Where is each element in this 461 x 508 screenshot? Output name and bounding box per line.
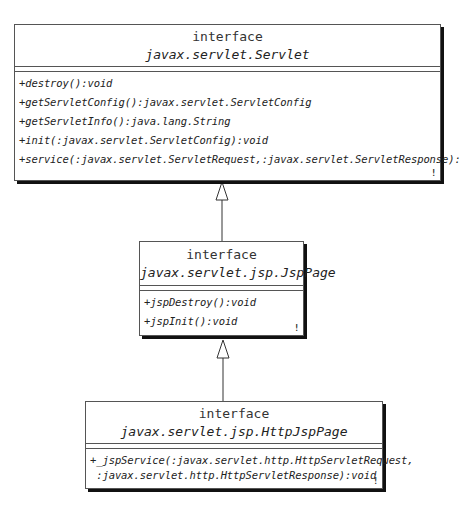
class-header: interface javax.servlet.jsp.HttpJspPage — [86, 402, 382, 443]
corner-mark-icon: ! — [294, 325, 299, 333]
class-name: javax.servlet.Servlet — [15, 46, 440, 64]
class-name: javax.servlet.jsp.HttpJspPage — [86, 423, 382, 441]
generalization-arrow-jsppage-to-servlet — [216, 182, 228, 241]
class-header: interface javax.servlet.jsp.JspPage — [140, 242, 303, 285]
stereotype-label: interface — [140, 246, 303, 264]
stereotype-label: interface — [86, 405, 382, 423]
operation: +_jspService(:javax.servlet.http.HttpSer… — [90, 453, 378, 468]
corner-mark-icon: ! — [373, 478, 378, 486]
operations-list: +jspDestroy():void +jspInit():void — [140, 291, 303, 331]
operation-continuation: :javax.servlet.http.HttpServletResponse)… — [90, 468, 378, 483]
operation: +jspDestroy():void — [144, 293, 299, 312]
operation: +init(:javax.servlet.ServletConfig):void — [19, 131, 436, 150]
operation: +destroy():void — [19, 74, 436, 93]
stereotype-label: interface — [15, 28, 440, 46]
operations-list: +destroy():void +getServletConfig():java… — [15, 72, 440, 169]
operation: +getServletConfig():javax.servlet.Servle… — [19, 93, 436, 112]
class-servlet[interactable]: interface javax.servlet.Servlet +destroy… — [14, 24, 441, 181]
class-httpjsppage[interactable]: interface javax.servlet.jsp.HttpJspPage … — [85, 401, 383, 489]
class-name: javax.servlet.jsp.JspPage — [140, 264, 303, 282]
operation: +getServletInfo():java.lang.String — [19, 112, 436, 131]
corner-mark-icon: ! — [431, 170, 436, 178]
operations-list: +_jspService(:javax.servlet.http.HttpSer… — [86, 449, 382, 483]
generalization-arrow-httpjsppage-to-jsppage — [217, 340, 229, 401]
operation: +jspInit():void — [144, 312, 299, 331]
class-jsppage[interactable]: interface javax.servlet.jsp.JspPage +jsp… — [139, 241, 304, 336]
class-header: interface javax.servlet.Servlet — [15, 25, 440, 66]
operation: +service(:javax.servlet.ServletRequest,:… — [19, 150, 436, 169]
